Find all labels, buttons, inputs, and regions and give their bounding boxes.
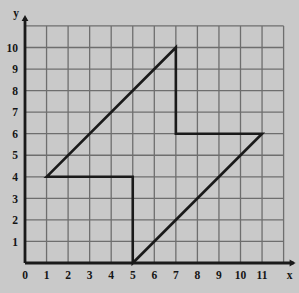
coordinate-plane-figure: 0123456789101112345678910 x y	[0, 0, 299, 293]
y-tick-label: 2	[12, 214, 18, 226]
x-tick-label: 9	[216, 269, 222, 281]
y-tick-label: 7	[12, 106, 18, 118]
y-tick-label: 1	[12, 236, 18, 248]
y-axis-label: y	[13, 7, 19, 20]
x-tick-label: 10	[235, 269, 247, 281]
background	[0, 0, 299, 293]
y-tick-label: 8	[12, 85, 18, 97]
x-tick-label: 11	[257, 269, 268, 281]
y-tick-label: 4	[12, 171, 18, 183]
y-tick-label: 3	[12, 193, 18, 205]
x-tick-label: 7	[173, 269, 179, 281]
x-axis-label: x	[287, 269, 293, 281]
x-tick-label: 1	[44, 269, 50, 281]
x-tick-label: 8	[195, 269, 201, 281]
x-tick-label: 5	[130, 269, 136, 281]
x-tick-label: 6	[151, 269, 157, 281]
y-tick-label: 10	[7, 42, 19, 54]
plot-svg: 0123456789101112345678910 x y	[0, 0, 299, 293]
y-tick-label: 9	[12, 63, 18, 75]
x-tick-label: 0	[22, 269, 28, 281]
x-tick-label: 4	[108, 269, 114, 281]
x-tick-label: 3	[87, 269, 93, 281]
x-tick-label: 2	[65, 269, 71, 281]
y-tick-label: 5	[12, 149, 18, 161]
y-tick-label: 6	[12, 128, 18, 140]
